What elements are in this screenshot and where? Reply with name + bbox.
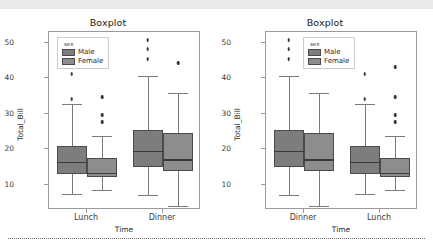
legend-item-male: Male (62, 48, 103, 56)
outlier-marker (394, 120, 397, 124)
chart-title: Boxplot (0, 17, 216, 28)
x-axis-label: Time (265, 225, 417, 234)
legend-swatch-male-icon (308, 49, 321, 56)
legend-label-male: Male (324, 48, 341, 56)
outlier-marker (101, 120, 104, 124)
whisker-cap (138, 195, 158, 196)
median-line (380, 173, 410, 174)
outlier-marker (147, 38, 150, 42)
y-tick-mark (261, 113, 265, 114)
whisker-line (178, 93, 179, 133)
whisker-cap (168, 93, 188, 94)
chart-panel-left: Boxplot Total_Bill Time sex Male Female … (0, 9, 216, 238)
whisker-line (72, 174, 73, 194)
x-tick-mark (379, 209, 380, 213)
whisker-line (365, 104, 366, 146)
whisker-cap (168, 206, 188, 207)
median-line (163, 159, 193, 160)
y-tick-label: 30 (0, 108, 14, 117)
median-line (274, 151, 304, 152)
whisker-line (102, 136, 103, 158)
legend-title: sex (310, 41, 349, 47)
legend-swatch-female-icon (308, 58, 321, 65)
y-tick-mark (44, 184, 48, 185)
box-male (350, 146, 380, 174)
whisker-line (289, 167, 290, 194)
y-tick-label: 10 (211, 180, 231, 189)
outlier-marker (394, 113, 397, 117)
whisker-cap (355, 104, 375, 105)
whisker-line (319, 93, 320, 133)
box-male (133, 130, 163, 167)
legend-title: sex (64, 41, 103, 47)
outlier-marker (101, 95, 104, 99)
y-tick-mark (44, 148, 48, 149)
legend-label-female: Female (324, 57, 349, 65)
whisker-cap (279, 195, 299, 196)
whisker-line (102, 177, 103, 190)
median-line (57, 162, 87, 163)
legend-label-male: Male (78, 48, 95, 56)
median-line (350, 162, 380, 163)
outlier-marker (101, 113, 104, 117)
median-line (133, 151, 163, 152)
y-tick-label: 30 (211, 108, 231, 117)
outlier-marker (288, 57, 291, 61)
outlier-marker (364, 72, 367, 76)
whisker-line (365, 174, 366, 194)
y-tick-mark (44, 42, 48, 43)
y-tick-mark (261, 42, 265, 43)
whisker-cap (92, 190, 112, 191)
y-tick-label: 40 (211, 73, 231, 82)
whisker-cap (309, 93, 329, 94)
x-tick-label: Lunch (56, 213, 116, 222)
top-gray-band (0, 0, 433, 9)
chart-title: Boxplot (217, 17, 433, 28)
figure: Boxplot Total_Bill Time sex Male Female … (0, 9, 433, 238)
outlier-marker (364, 97, 367, 101)
whisker-line (395, 177, 396, 190)
whisker-cap (62, 104, 82, 105)
whisker-line (178, 171, 179, 207)
legend-item-female: Female (62, 57, 103, 65)
x-tick-label: Dinner (273, 213, 333, 222)
y-tick-mark (44, 113, 48, 114)
outlier-marker (394, 65, 397, 69)
whisker-cap (92, 136, 112, 137)
y-axis-label: Total_Bill (233, 75, 242, 175)
outlier-marker (177, 61, 180, 65)
whisker-cap (138, 76, 158, 77)
outlier-marker (394, 95, 397, 99)
whisker-cap (355, 194, 375, 195)
y-axis-label: Total_Bill (16, 75, 25, 175)
box-male (274, 130, 304, 167)
legend-item-male: Male (308, 48, 349, 56)
whisker-cap (385, 190, 405, 191)
box-female (304, 133, 334, 170)
y-tick-label: 20 (0, 144, 14, 153)
y-tick-label: 40 (0, 73, 14, 82)
y-tick-mark (261, 77, 265, 78)
legend-swatch-male-icon (62, 49, 75, 56)
y-tick-label: 10 (0, 180, 14, 189)
whisker-line (148, 167, 149, 194)
legend-label-female: Female (78, 57, 103, 65)
whisker-cap (385, 136, 405, 137)
whisker-cap (279, 76, 299, 77)
whisker-line (289, 76, 290, 130)
y-tick-label: 50 (211, 37, 231, 46)
median-line (87, 173, 117, 174)
outlier-marker (288, 47, 291, 51)
legend-swatch-female-icon (62, 58, 75, 65)
bottom-dotted-divider (8, 238, 425, 239)
y-tick-mark (261, 148, 265, 149)
whisker-line (148, 76, 149, 130)
x-tick-label: Lunch (349, 213, 409, 222)
outlier-marker (288, 38, 291, 42)
y-tick-mark (261, 184, 265, 185)
whisker-line (319, 171, 320, 207)
legend: sex Male Female (57, 37, 109, 69)
outlier-marker (71, 97, 74, 101)
x-tick-mark (162, 209, 163, 213)
whisker-cap (62, 194, 82, 195)
